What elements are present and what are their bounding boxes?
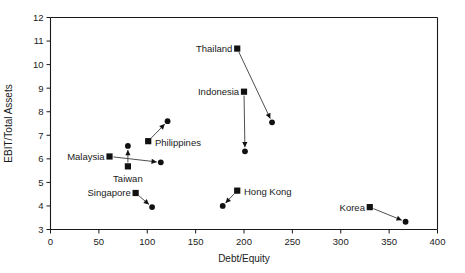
y-tick-label: 6 xyxy=(38,153,43,164)
y-tick-label: 12 xyxy=(33,12,44,23)
scatter-plot: 3456789101112050100150200250300350400 Ma… xyxy=(0,0,465,273)
x-tick-label: 250 xyxy=(284,236,300,247)
series-label-korea: Korea xyxy=(340,202,366,213)
x-tick-label: 0 xyxy=(48,236,53,247)
x-tick-label: 400 xyxy=(430,236,446,247)
marker-start-square xyxy=(367,204,373,210)
y-tick-label: 4 xyxy=(38,200,43,211)
x-tick-label: 200 xyxy=(236,236,252,247)
series-label-philippines: Philippines xyxy=(155,137,201,148)
marker-start-square xyxy=(234,45,240,51)
y-tick-label: 8 xyxy=(38,106,43,117)
y-tick-label: 11 xyxy=(34,35,44,46)
series-label-thailand: Thailand xyxy=(196,43,232,54)
axis-ticks xyxy=(47,18,438,234)
y-axis-title: EBIT/Total Assets xyxy=(3,84,14,162)
y-tick-label: 9 xyxy=(38,83,43,94)
x-tick-label: 50 xyxy=(94,236,105,247)
series-labels: MalaysiaTaiwanPhilippinesSingaporeThaila… xyxy=(67,43,365,213)
marker-end-circle xyxy=(242,148,248,154)
series-label-hong-kong: Hong Kong xyxy=(244,186,292,197)
marker-start-square xyxy=(234,188,240,194)
connector-line xyxy=(239,52,270,118)
marker-end-circle xyxy=(403,219,409,225)
marker-start-square xyxy=(125,163,131,169)
marker-start-square xyxy=(106,153,112,159)
connector-arrowhead xyxy=(125,150,130,155)
y-tick-label: 5 xyxy=(38,177,43,188)
connector-arrowhead xyxy=(151,159,156,164)
marker-start-square xyxy=(145,138,151,144)
series-label-taiwan: Taiwan xyxy=(113,173,143,184)
y-tick-label: 7 xyxy=(38,130,43,141)
x-tick-label: 300 xyxy=(333,236,349,247)
marker-end-circle xyxy=(158,159,164,165)
x-tick-label: 150 xyxy=(188,236,204,247)
chart-figure: 3456789101112050100150200250300350400 Ma… xyxy=(0,0,465,273)
x-tick-label: 350 xyxy=(381,236,397,247)
x-axis-title: Debt/Equity xyxy=(218,253,270,264)
marker-start-square xyxy=(241,89,247,95)
x-tick-label: 100 xyxy=(139,236,155,247)
data-markers xyxy=(106,45,408,224)
marker-end-circle xyxy=(220,203,226,209)
y-tick-label: 3 xyxy=(38,224,43,235)
marker-start-square xyxy=(133,190,139,196)
marker-end-circle xyxy=(165,118,171,124)
marker-end-circle xyxy=(125,143,131,149)
marker-end-circle xyxy=(269,119,275,125)
connector-arrowhead xyxy=(242,142,247,147)
marker-end-circle xyxy=(149,204,155,210)
series-label-indonesia: Indonesia xyxy=(198,86,240,97)
series-label-singapore: Singapore xyxy=(87,187,130,198)
connector-line xyxy=(113,157,156,162)
connector-line xyxy=(244,96,245,148)
y-tick-label: 10 xyxy=(33,59,44,70)
series-label-malaysia: Malaysia xyxy=(67,151,105,162)
